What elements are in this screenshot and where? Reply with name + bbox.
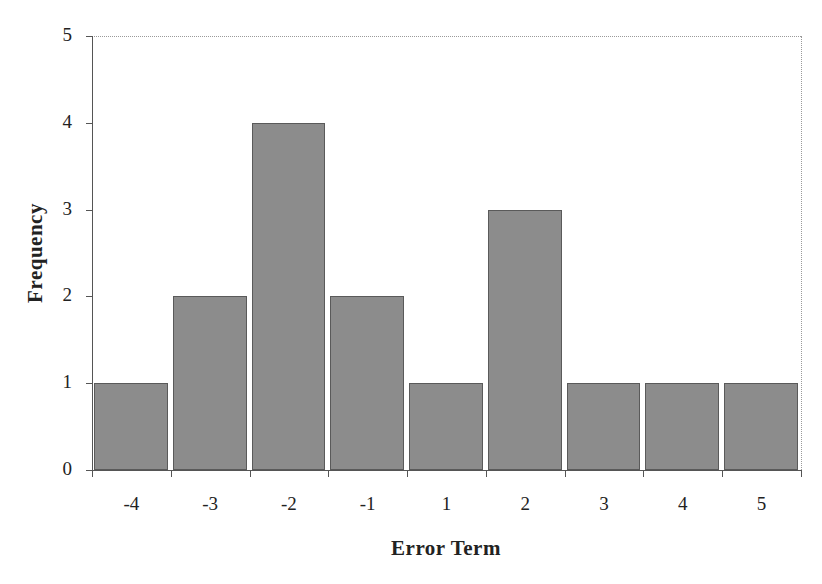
- x-tick-mark: [643, 470, 644, 477]
- x-tick-label: -2: [259, 494, 319, 514]
- plot-frame-right: [801, 36, 802, 470]
- bar--2: [252, 123, 326, 470]
- y-tick-mark: [86, 383, 92, 384]
- y-tick-mark: [86, 210, 92, 211]
- bar--1: [330, 296, 404, 470]
- y-tick-label: 4: [42, 112, 72, 132]
- y-axis-line: [92, 36, 93, 471]
- y-tick-mark: [86, 123, 92, 124]
- plot-frame-top: [92, 36, 801, 37]
- y-tick-mark: [86, 36, 92, 37]
- x-tick-label: 2: [495, 494, 555, 514]
- x-tick-mark: [171, 470, 172, 477]
- x-axis-line: [92, 470, 802, 471]
- x-tick-label: 1: [417, 494, 477, 514]
- x-tick-label: 5: [732, 494, 792, 514]
- x-tick-mark: [722, 470, 723, 477]
- x-tick-label: -3: [180, 494, 240, 514]
- y-axis-title: Frequency: [23, 203, 48, 303]
- x-axis-title: Error Term: [391, 536, 501, 561]
- bar-1: [409, 383, 483, 470]
- y-tick-label: 0: [42, 459, 72, 479]
- x-tick-label: 4: [653, 494, 713, 514]
- y-tick-mark: [86, 296, 92, 297]
- bar--3: [173, 296, 247, 470]
- x-tick-label: -1: [338, 494, 398, 514]
- x-tick-mark: [92, 470, 93, 477]
- x-tick-mark: [328, 470, 329, 477]
- histogram-chart: 012345 -4-3-2-112345 Frequency Error Ter…: [0, 0, 822, 584]
- bar-4: [645, 383, 719, 470]
- bar-5: [724, 383, 798, 470]
- x-tick-mark: [565, 470, 566, 477]
- x-tick-mark: [250, 470, 251, 477]
- x-tick-label: 3: [574, 494, 634, 514]
- bar-3: [567, 383, 641, 470]
- y-tick-label: 1: [42, 372, 72, 392]
- x-tick-mark: [486, 470, 487, 477]
- bar-2: [488, 210, 562, 470]
- x-tick-mark: [407, 470, 408, 477]
- y-tick-label: 5: [42, 25, 72, 45]
- x-tick-label: -4: [101, 494, 161, 514]
- bar--4: [94, 383, 168, 470]
- x-tick-mark: [801, 470, 802, 477]
